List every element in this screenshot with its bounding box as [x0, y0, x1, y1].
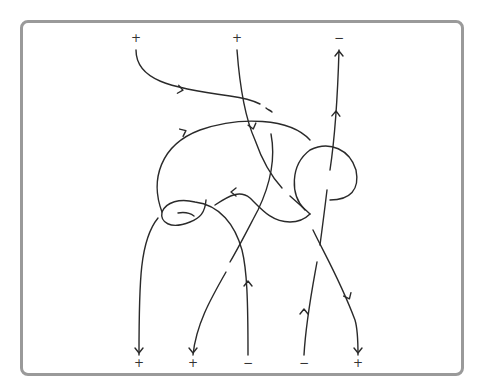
arrow-8-head-icon [300, 309, 308, 314]
tangle-diagram [0, 0, 481, 392]
bottom-sign-label: − [299, 357, 309, 369]
top-sign-label: + [131, 32, 141, 44]
strand-3b [320, 190, 327, 245]
bottom-sign-label: + [134, 357, 144, 369]
strand-2 [237, 50, 282, 188]
loop-big [157, 121, 310, 212]
top-sign-label: − [334, 32, 344, 44]
bottom-sign-label: + [353, 357, 363, 369]
strand-small-arc [178, 213, 194, 216]
strand-1b [266, 108, 272, 112]
strand-3c [304, 262, 317, 355]
arrow-9-head-icon [344, 293, 353, 301]
arrow-7-head-icon [244, 281, 252, 286]
strand-left-down [139, 218, 158, 355]
bottom-sign-label: − [243, 357, 253, 369]
strand-1 [136, 50, 260, 104]
top-sign-label: + [232, 32, 242, 44]
strand-loop-small [162, 200, 248, 355]
strand-3 [330, 50, 339, 170]
arrow-5-head-icon [180, 127, 188, 136]
bottom-sign-label: + [188, 357, 198, 369]
strand-mid-b [193, 272, 226, 355]
arrow-6-head-icon [231, 188, 236, 196]
strand-mid-a [230, 134, 273, 262]
